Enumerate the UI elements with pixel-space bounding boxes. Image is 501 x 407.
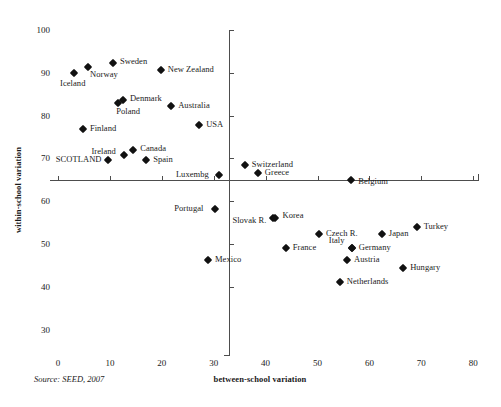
data-point-label: Belgium <box>358 176 388 186</box>
y-tick-label-70: 70 <box>26 153 50 163</box>
data-point-label: Finland <box>90 123 116 133</box>
data-point-label: Iceland <box>60 78 85 88</box>
x-tick-20 <box>162 176 163 180</box>
y-tick-label-40: 40 <box>26 282 50 292</box>
data-point-label: Australia <box>178 100 210 110</box>
x-tick-label-0: 0 <box>43 358 73 368</box>
y-tick-100 <box>230 30 234 31</box>
y-tick-90 <box>230 73 234 74</box>
data-point-marker <box>167 102 175 110</box>
x-axis-line <box>50 180 479 181</box>
x-tick-0 <box>58 176 59 180</box>
x-tick-label-40: 40 <box>251 358 281 368</box>
plot-area: 01020304050607080 30405060708090100 Icel… <box>0 0 501 407</box>
data-point-label: Spain <box>153 154 173 164</box>
y-axis-line <box>229 30 230 355</box>
y-tick-70 <box>230 158 234 159</box>
data-point-label: Luxembg <box>176 169 209 179</box>
data-point-marker <box>399 264 407 272</box>
data-point-label: Hungary <box>410 262 440 272</box>
data-point-label: USA <box>206 119 223 129</box>
data-point-marker <box>347 176 355 184</box>
y-tick-50 <box>230 244 234 245</box>
y-tick-40 <box>230 287 234 288</box>
data-point-label: Italy <box>329 235 345 245</box>
data-point-marker <box>142 156 150 164</box>
x-tick-10 <box>110 176 111 180</box>
data-point-label: Japan <box>389 228 409 238</box>
data-point-marker <box>109 58 117 66</box>
data-point-marker <box>412 222 420 230</box>
data-point-label: New Zealand <box>168 64 214 74</box>
x-tick-30 <box>214 176 215 180</box>
data-point-label: France <box>293 242 316 252</box>
x-tick-label-10: 10 <box>95 358 125 368</box>
y-tick-label-30: 30 <box>26 325 50 335</box>
y-tick-label-100: 100 <box>26 25 50 35</box>
data-point-marker <box>215 171 223 179</box>
data-point-marker <box>195 121 203 129</box>
data-point-marker <box>211 204 219 212</box>
x-tick-label-50: 50 <box>303 358 333 368</box>
y-tick-label-80: 80 <box>26 111 50 121</box>
data-point-label: Slovak R. <box>232 215 266 225</box>
data-point-label: Canada <box>140 143 166 153</box>
data-point-label: Ireland <box>91 146 115 156</box>
x-tick-label-20: 20 <box>147 358 177 368</box>
data-point-label: Portugal <box>174 203 203 213</box>
x-tick-label-60: 60 <box>354 358 384 368</box>
data-point-label: Norway <box>90 69 118 79</box>
x-axis-title: between-school variation <box>170 374 350 384</box>
data-point-marker <box>120 151 128 159</box>
scatter-chart-figure: 01020304050607080 30405060708090100 Icel… <box>0 0 501 407</box>
x-tick-label-70: 70 <box>406 358 436 368</box>
data-point-marker <box>157 66 165 74</box>
data-point-label: Korea <box>282 210 303 220</box>
data-point-marker <box>129 146 137 154</box>
data-point-marker <box>348 244 356 252</box>
data-point-marker <box>336 278 344 286</box>
data-point-label: Greece <box>265 167 289 177</box>
y-tick-label-50: 50 <box>26 239 50 249</box>
data-point-marker <box>378 230 386 238</box>
data-point-label: Netherlands <box>347 276 389 286</box>
data-point-marker <box>104 156 112 164</box>
x-tick-label-30: 30 <box>199 358 229 368</box>
y-tick-80 <box>230 116 234 117</box>
x-tick-80 <box>473 176 474 180</box>
data-point-label: Poland <box>116 106 140 116</box>
x-tick-label-80: 80 <box>458 358 488 368</box>
y-axis-title: within-school variation <box>13 125 23 255</box>
data-point-marker <box>204 256 212 264</box>
data-point-marker <box>79 125 87 133</box>
data-point-label: Mexico <box>215 254 241 264</box>
y-axis-endcap <box>224 355 230 356</box>
data-point-marker <box>254 169 262 177</box>
data-point-marker <box>70 68 78 76</box>
x-tick-50 <box>318 176 319 180</box>
y-tick-label-90: 90 <box>26 68 50 78</box>
data-point-label: Denmark <box>130 93 162 103</box>
y-tick-label-60: 60 <box>26 196 50 206</box>
data-point-marker <box>343 256 351 264</box>
data-point-label: Turkey <box>424 221 449 231</box>
data-point-marker <box>315 230 323 238</box>
source-note: Source: SEED, 2007 <box>34 374 104 384</box>
data-point-label: Germany <box>359 242 391 252</box>
data-point-marker <box>241 161 249 169</box>
x-tick-70 <box>421 176 422 180</box>
data-point-label: Sweden <box>120 56 147 66</box>
data-point-marker <box>282 244 290 252</box>
y-tick-60 <box>230 201 234 202</box>
x-axis-endcap <box>478 174 479 180</box>
data-point-label: Austria <box>354 254 379 264</box>
